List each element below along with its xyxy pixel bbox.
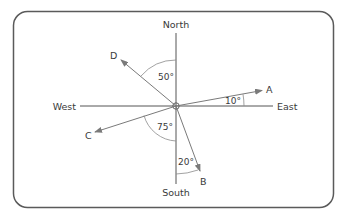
point-b-label: B <box>200 176 207 187</box>
compass-diagram: North South West East A 10° B 20° C 75° … <box>0 0 346 218</box>
angle-label-c: 75° <box>157 122 173 132</box>
angle-label-d: 50° <box>158 72 174 82</box>
point-d-label: D <box>110 50 117 61</box>
south-label: South <box>162 187 190 198</box>
west-label: West <box>53 101 77 112</box>
north-label: North <box>163 19 190 30</box>
point-a-label: A <box>266 84 273 95</box>
angle-label-b: 20° <box>178 157 194 167</box>
point-c-label: C <box>85 130 92 141</box>
angle-label-a: 10° <box>225 96 241 106</box>
east-label: East <box>277 101 298 112</box>
